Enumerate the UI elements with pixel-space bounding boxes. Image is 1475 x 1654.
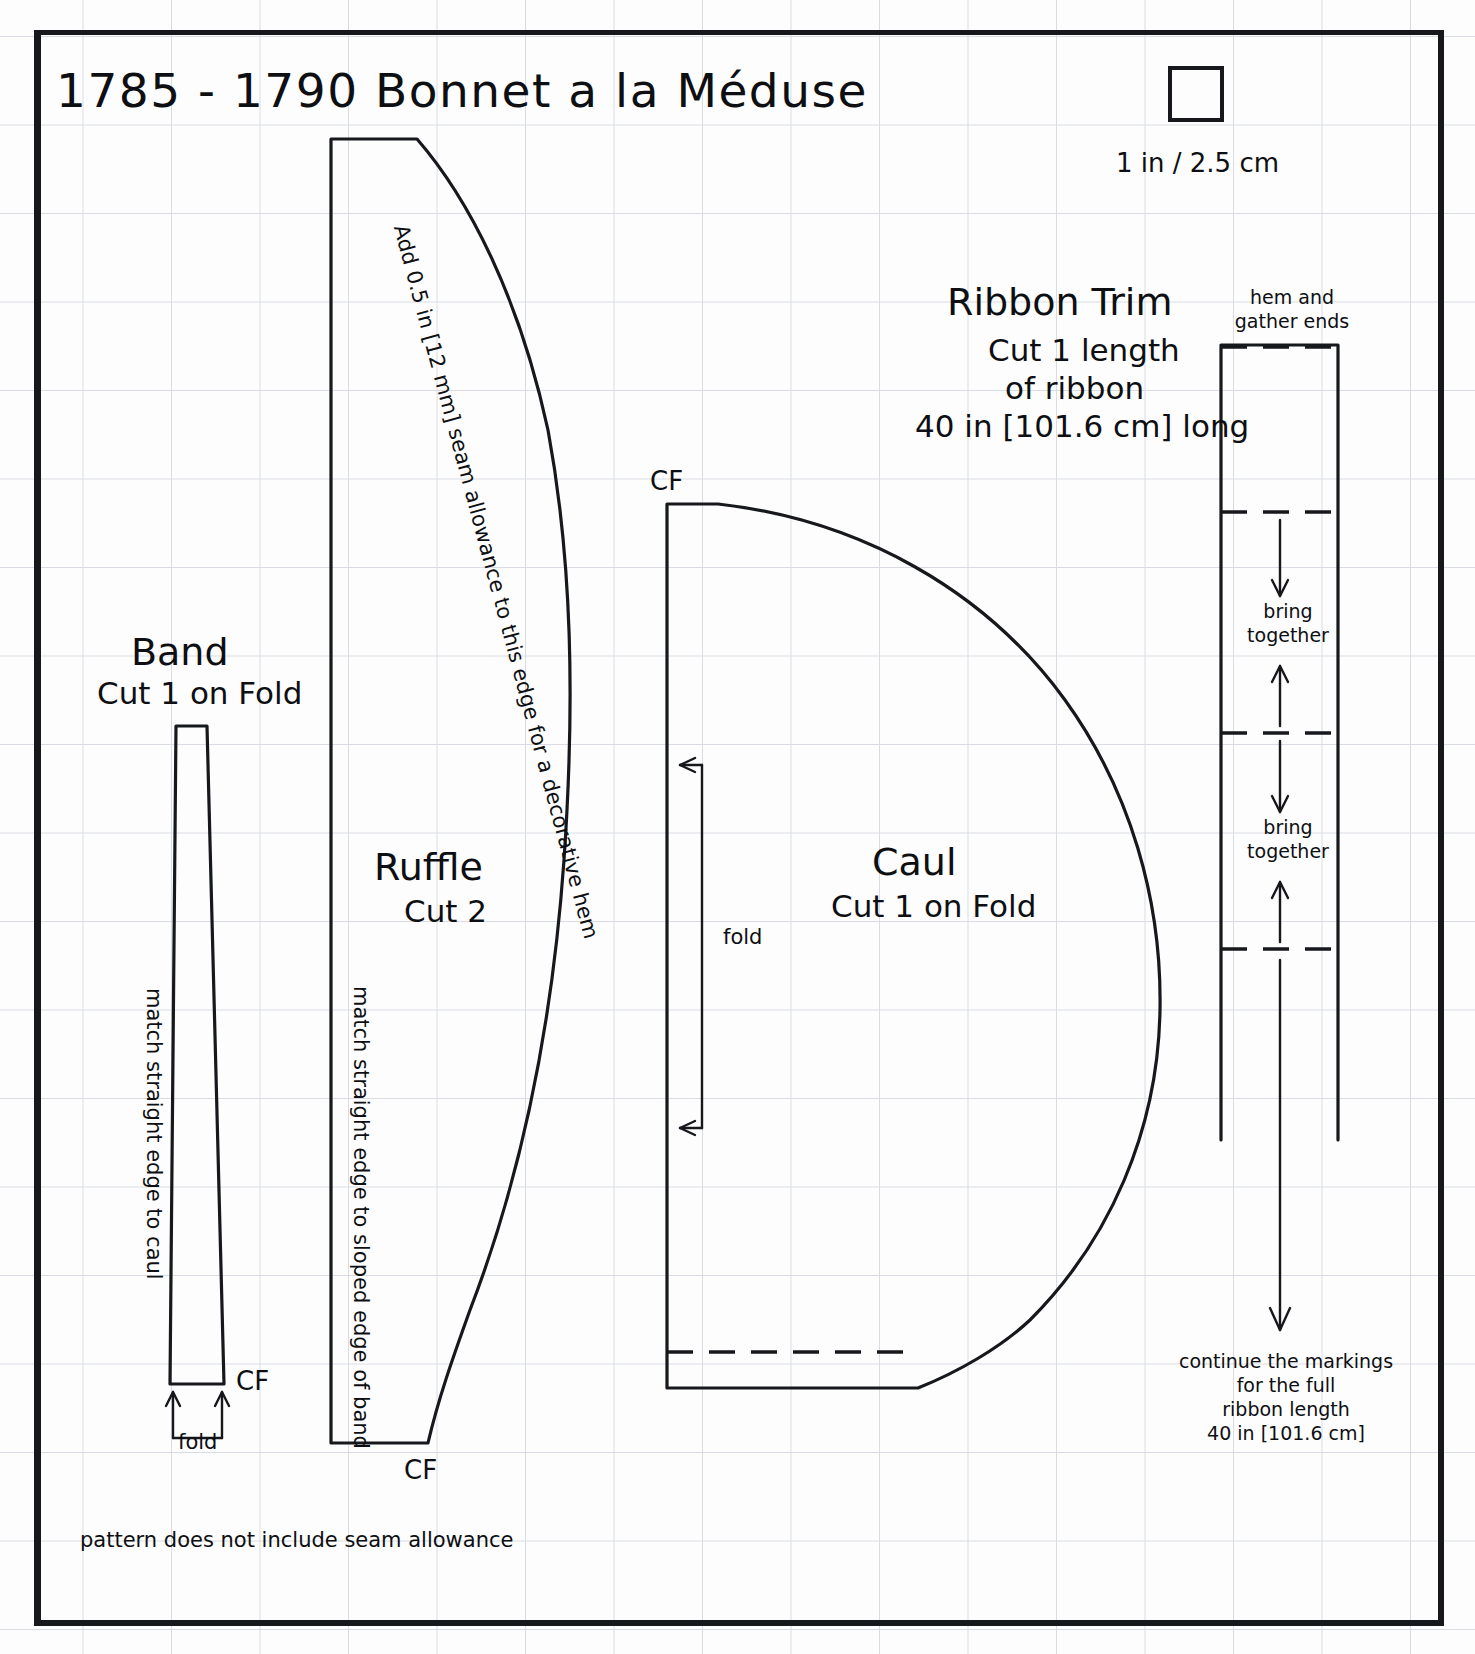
ribbon-bring-together-2-line-1: bring [1242, 816, 1334, 838]
ribbon-length-label: 40 in [101.6 cm] long [915, 408, 1249, 445]
band-grain-note: match straight edge to caul [141, 988, 166, 1280]
caul-fold-label: fold [723, 925, 762, 950]
band-title: Band [131, 630, 229, 675]
ribbon-continue-note-line-1: continue the markings [1172, 1350, 1400, 1372]
band-cut-label: Cut 1 on Fold [97, 675, 302, 712]
ribbon-cut-line-2: of ribbon [1005, 370, 1144, 407]
ribbon-title: Ribbon Trim [947, 280, 1172, 325]
caul-cf-marker: CF [650, 466, 683, 497]
ribbon-bring-together-2-line-2: together [1236, 840, 1340, 862]
band-outline [166, 726, 229, 1438]
caul-cut-label: Cut 1 on Fold [831, 888, 1036, 925]
ribbon-continue-note-line-3: ribbon length [1172, 1398, 1400, 1420]
ribbon-continue-note-line-4: 40 in [101.6 cm] [1172, 1422, 1400, 1444]
ribbon-bring-together-1-line-2: together [1236, 624, 1340, 646]
ruffle-title: Ruffle [374, 845, 483, 890]
ribbon-cut-line-1: Cut 1 length [988, 332, 1180, 369]
footer-note: pattern does not include seam allowance [80, 1528, 513, 1553]
pattern-sheet: 1785 - 1790 Bonnet a la Méduse 1 in / 2.… [0, 0, 1475, 1654]
ribbon-bring-together-1-line-1: bring [1242, 600, 1334, 622]
band-cf-marker: CF [236, 1366, 269, 1397]
ruffle-cut-label: Cut 2 [404, 893, 487, 930]
ribbon-continue-note-line-2: for the full [1172, 1374, 1400, 1396]
ruffle-grain-note: match straight edge to sloped edge of ba… [348, 986, 373, 1449]
caul-title: Caul [872, 840, 956, 885]
ribbon-hem-note-line-1: hem and [1232, 286, 1352, 308]
band-fold-label: fold [178, 1430, 217, 1455]
ruffle-cf-marker: CF [404, 1455, 437, 1486]
ribbon-hem-note-line-2: gather ends [1222, 310, 1362, 332]
